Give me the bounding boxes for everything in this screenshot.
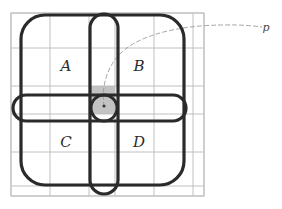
geometry-diagram: A B C D p bbox=[0, 0, 282, 209]
region-label-d: D bbox=[132, 133, 145, 151]
region-label-a: A bbox=[59, 57, 72, 75]
figure-background bbox=[0, 0, 282, 209]
region-label-c: C bbox=[60, 133, 72, 151]
curve-label-p: p bbox=[262, 21, 269, 34]
region-label-b: B bbox=[132, 57, 144, 75]
figure-root: A B C D p bbox=[0, 0, 282, 209]
center-point-marker bbox=[102, 104, 105, 107]
